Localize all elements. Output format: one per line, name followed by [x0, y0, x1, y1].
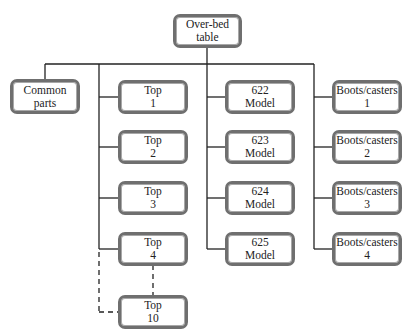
boots-3-line2: 3 — [364, 198, 370, 211]
top-4-line2: 4 — [150, 249, 156, 262]
node-model-623: 623 Model — [225, 130, 295, 164]
top-4-line1: Top — [144, 236, 162, 249]
boots-3-line1: Boots/casters — [336, 185, 397, 198]
common-label-line1: Common — [24, 84, 67, 97]
model-625-line2: Model — [245, 249, 275, 262]
model-624-line2: Model — [245, 198, 275, 211]
node-top-4: Top 4 — [118, 232, 188, 266]
model-624-line1: 624 — [251, 185, 268, 198]
root-label-line2: table — [196, 31, 218, 44]
node-model-622: 622 Model — [225, 80, 295, 114]
common-label-line2: parts — [34, 97, 56, 110]
boots-2-line1: Boots/casters — [336, 134, 397, 147]
top-10-line1: Top — [144, 299, 162, 312]
boots-4-line2: 4 — [364, 249, 370, 262]
top-3-line1: Top — [144, 185, 162, 198]
node-model-624: 624 Model — [225, 181, 295, 215]
model-623-line1: 623 — [251, 134, 268, 147]
top-2-line1: Top — [144, 134, 162, 147]
root-label-line1: Over-bed — [186, 18, 229, 31]
boots-4-line1: Boots/casters — [336, 236, 397, 249]
node-common-parts: Common parts — [10, 79, 80, 114]
connector-lines — [0, 0, 406, 332]
model-622-line2: Model — [245, 97, 275, 110]
root-node-over-bed-table: Over-bed table — [173, 14, 242, 48]
node-top-1: Top 1 — [118, 80, 188, 114]
model-625-line1: 625 — [251, 236, 268, 249]
boots-1-line1: Boots/casters — [336, 84, 397, 97]
top-2-line2: 2 — [150, 147, 156, 160]
node-boots-casters-4: Boots/casters 4 — [332, 232, 402, 266]
boots-2-line2: 2 — [364, 147, 370, 160]
model-623-line2: Model — [245, 147, 275, 160]
top-1-line2: 1 — [150, 97, 156, 110]
node-boots-casters-3: Boots/casters 3 — [332, 181, 402, 215]
top-10-line2: 10 — [147, 312, 159, 325]
top-3-line2: 3 — [150, 198, 156, 211]
node-top-2: Top 2 — [118, 130, 188, 164]
node-boots-casters-2: Boots/casters 2 — [332, 130, 402, 164]
node-model-625: 625 Model — [225, 232, 295, 266]
node-top-3: Top 3 — [118, 181, 188, 215]
node-boots-casters-1: Boots/casters 1 — [332, 80, 402, 114]
top-1-line1: Top — [144, 84, 162, 97]
model-622-line1: 622 — [251, 84, 268, 97]
node-top-10: Top 10 — [118, 295, 188, 329]
boots-1-line2: 1 — [364, 97, 370, 110]
